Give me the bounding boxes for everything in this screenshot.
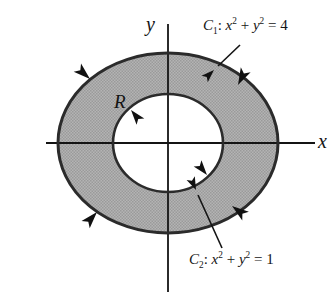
- c1-y-symbol: y: [253, 17, 260, 33]
- annulus-diagram: y x R C1: x2 + y2 = 4 C2: x2 + y2 = 1: [0, 0, 336, 302]
- y-axis-label: y: [146, 14, 155, 34]
- diagram-canvas: [0, 0, 336, 302]
- c1-x-exponent: 2: [232, 16, 237, 26]
- c1-colon: :: [218, 17, 222, 33]
- c2-y-symbol: y: [239, 251, 246, 267]
- c1-plus-operator: +: [241, 17, 249, 33]
- region-label: R: [114, 92, 126, 111]
- c2-radius-value: 1: [266, 251, 274, 267]
- c2-equals-operator: =: [254, 251, 262, 267]
- c2-x-exponent: 2: [218, 250, 223, 260]
- c1-equals-operator: =: [268, 17, 276, 33]
- c2-plus-operator: +: [227, 251, 235, 267]
- x-axis-label: x: [318, 131, 327, 151]
- c1-radius-value: 4: [280, 17, 288, 33]
- c2-colon: :: [204, 251, 208, 267]
- c1-curve-name: C: [203, 17, 213, 33]
- curve-c1-label: C1: x2 + y2 = 4: [203, 18, 288, 33]
- c1-y-exponent: 2: [260, 16, 265, 26]
- c2-y-exponent: 2: [246, 250, 251, 260]
- curve-c2-label: C2: x2 + y2 = 1: [189, 252, 274, 267]
- c2-curve-name: C: [189, 251, 199, 267]
